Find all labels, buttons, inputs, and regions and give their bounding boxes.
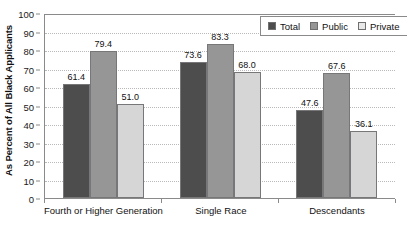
bar-slot: 67.6	[323, 14, 350, 198]
bar-slot: 36.1	[350, 14, 377, 198]
y-axis-tick-mark	[36, 88, 40, 89]
bar[interactable]	[90, 51, 117, 198]
y-axis-tick-label: 60	[23, 83, 34, 94]
y-axis-tick-mark	[36, 162, 40, 163]
bar-value-label: 61.4	[68, 72, 86, 82]
y-axis-tick-mark	[36, 106, 40, 107]
y-axis-tick-mark	[36, 143, 40, 144]
bar-value-label: 67.6	[328, 61, 346, 71]
bar-value-label: 36.1	[355, 119, 373, 129]
legend-item[interactable]: Total	[268, 21, 300, 32]
y-axis-tick-label: 10	[23, 175, 34, 186]
legend-label: Private	[370, 21, 400, 32]
y-axis-tick-mark	[36, 125, 40, 126]
x-axis-tick-mark	[161, 199, 162, 203]
bar-slot: 79.4	[90, 14, 117, 198]
bar-group: 61.479.451.0	[45, 14, 162, 198]
bar-slot: 51.0	[117, 14, 144, 198]
x-axis-tick-mark	[278, 199, 279, 203]
bar-value-label: 51.0	[122, 92, 140, 102]
bar[interactable]	[296, 110, 323, 198]
y-axis-tick-label: 90	[23, 27, 34, 38]
bar[interactable]	[323, 73, 350, 198]
x-axis-category-label: Fourth or Higher Generation	[44, 201, 163, 223]
bar[interactable]	[207, 44, 234, 198]
y-axis-tick-label: 50	[23, 101, 34, 112]
bar-slot: 73.6	[180, 14, 207, 198]
y-axis-tick-label: 70	[23, 64, 34, 75]
x-axis-tick-mark	[395, 199, 396, 203]
bar[interactable]	[63, 84, 90, 198]
y-axis-tick-mark	[36, 199, 40, 200]
bar-value-label: 83.3	[211, 32, 229, 42]
y-axis-tick-mark	[36, 51, 40, 52]
y-axis-tick-label: 100	[18, 9, 34, 20]
x-axis-category-label: Single Race	[163, 201, 279, 223]
legend-item[interactable]: Public	[310, 21, 348, 32]
bar[interactable]	[234, 72, 261, 198]
y-axis-tick-labels: 1009080706050403020100	[0, 14, 40, 199]
legend-swatch-icon	[310, 22, 318, 30]
bar-group: 73.683.368.0	[162, 14, 279, 198]
bar-slot: 68.0	[234, 14, 261, 198]
bar-value-label: 79.4	[95, 39, 113, 49]
legend-label: Total	[280, 21, 300, 32]
chart-legend: TotalPublicPrivate	[260, 16, 407, 36]
y-axis-tick-mark	[36, 14, 40, 15]
legend-swatch-icon	[268, 22, 276, 30]
y-axis-tick-mark	[36, 32, 40, 33]
y-axis-tick-label: 30	[23, 138, 34, 149]
x-axis-category-labels: Fourth or Higher GenerationSingle RaceDe…	[44, 201, 395, 223]
legend-swatch-icon	[358, 22, 366, 30]
x-axis-tick-mark	[44, 199, 45, 203]
bar[interactable]	[180, 62, 207, 198]
legend-item[interactable]: Private	[358, 21, 400, 32]
y-axis-tick-label: 40	[23, 120, 34, 131]
x-axis-category-label: Descendants	[279, 201, 395, 223]
bar[interactable]	[117, 104, 144, 198]
y-axis-tick-mark	[36, 180, 40, 181]
legend-label: Public	[322, 21, 348, 32]
bar-group-bars: 73.683.368.0	[162, 14, 279, 198]
bar-group: 47.667.636.1	[278, 14, 395, 198]
bar-value-label: 73.6	[184, 50, 202, 60]
bar-group-bars: 47.667.636.1	[278, 14, 395, 198]
bar-slot: 83.3	[207, 14, 234, 198]
bar-chart: As Percent of All Black Applicants 10090…	[0, 0, 407, 225]
y-axis-tick-label: 80	[23, 46, 34, 57]
bar[interactable]	[350, 131, 377, 198]
bar-slot: 47.6	[296, 14, 323, 198]
bar-value-label: 68.0	[238, 60, 256, 70]
bar-group-bars: 61.479.451.0	[45, 14, 162, 198]
bar-groups: 61.479.451.073.683.368.047.667.636.1	[45, 14, 395, 198]
y-axis-tick-label: 20	[23, 157, 34, 168]
bar-value-label: 47.6	[301, 98, 319, 108]
y-axis-tick-mark	[36, 69, 40, 70]
y-axis-tick-label: 0	[29, 194, 34, 205]
plot-area: 61.479.451.073.683.368.047.667.636.1	[44, 14, 395, 199]
bar-slot: 61.4	[63, 14, 90, 198]
